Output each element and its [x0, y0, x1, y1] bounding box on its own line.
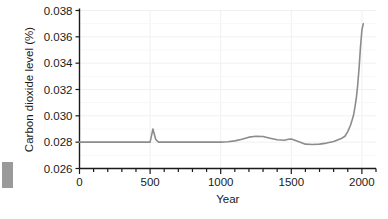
x-tick-label: 1000	[208, 176, 234, 188]
x-tick-label: 500	[141, 176, 160, 188]
y-tick-label: 0.034	[44, 57, 73, 69]
co2-line-chart: 0500100015002000 0.0260.0280.0300.0320.0…	[0, 0, 388, 219]
y-tick-label: 0.036	[44, 31, 73, 43]
x-tick-label: 2000	[349, 176, 375, 188]
x-tick-label: 1500	[278, 176, 304, 188]
y-tick-label: 0.028	[44, 136, 73, 148]
y-axis-title: Carbon dioxide level (%)	[23, 27, 35, 152]
x-axis-title: Year	[216, 193, 239, 205]
chart-figure: 0500100015002000 0.0260.0280.0300.0320.0…	[0, 0, 388, 219]
x-tick-label: 0	[76, 176, 82, 188]
page-edge-marker	[2, 162, 13, 188]
y-tick-label: 0.030	[44, 110, 73, 122]
y-tick-label: 0.038	[44, 5, 73, 17]
y-tick-label: 0.026	[44, 163, 73, 175]
y-tick-label: 0.032	[44, 84, 73, 96]
